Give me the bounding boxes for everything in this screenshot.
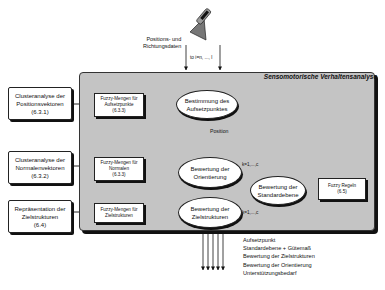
ellipse-line: Aufsetzpunktes: [177, 105, 237, 113]
ellipse-line: Orientierung: [179, 173, 241, 181]
edge-label-k-ziel: k=1,...,c: [242, 210, 258, 215]
box-line: Normalenvektoren: [9, 164, 71, 172]
target-structure-box[interactable]: Repräsentation der Zielstrukturen (6.4): [8, 200, 72, 233]
ellipse-line: Bewertung der: [179, 205, 241, 213]
ellipse-line: Bestimmung des: [177, 97, 237, 105]
edge-label-k-orient: k=1,...,c: [242, 162, 258, 167]
index-label: to i=n, ..., l: [190, 55, 212, 60]
box-line: Clusteranalyse der: [9, 92, 71, 100]
box-ref: (6.4): [9, 221, 71, 229]
output-item: Standardebene + Gütemaß: [243, 244, 315, 252]
fuzzy-aufsetz-box[interactable]: Fuzzy-Mengen für Aufsetzpunkte (6.3.3): [94, 93, 144, 117]
box-line: Positionsvektoren: [9, 100, 71, 108]
ellipse-standardebene[interactable]: Bewertung der Standardebene: [250, 176, 306, 205]
fuzzy-ziel-box[interactable]: Fuzzy-Mengen für Zielstrukturen: [94, 203, 144, 223]
ellipse-line: Zielstrukturen: [179, 213, 241, 221]
box-line: Repräsentation der: [9, 205, 71, 213]
box-line: Zielstrukturen: [95, 213, 143, 219]
box-ref: (6.3.3): [95, 108, 143, 114]
panel-title: Sensomotorische Verhaltensanalyse: [264, 73, 377, 80]
box-ref: (6.5): [319, 189, 365, 195]
ellipse-orientierung[interactable]: Bewertung der Orientierung: [178, 157, 242, 188]
ellipse-line: Standardebene: [251, 191, 305, 199]
box-ref: (6.3.3): [95, 172, 143, 178]
cluster-normal-box[interactable]: Clusteranalyse der Normalenvektoren (6.3…: [8, 151, 72, 184]
ellipse-zielstrukturen[interactable]: Bewertung der Zielstrukturen: [178, 197, 242, 228]
fuzzy-normal-box[interactable]: Fuzzy-Mengen für Normalen (6.3.3): [94, 157, 144, 181]
input-label: Positions- und Richtungsdaten: [143, 36, 181, 50]
input-label-line1: Positions- und: [143, 36, 181, 43]
box-line: Zielstrukturen: [9, 213, 71, 221]
box-line: Clusteranalyse der: [9, 156, 71, 164]
ellipse-line: Bewertung der: [179, 165, 241, 173]
output-item: Unterstützungsbedarf: [243, 269, 315, 277]
output-item: Bewertung der Orientierung: [243, 261, 315, 269]
edge-label-position: Position: [210, 128, 228, 134]
fuzzy-rules-box[interactable]: Fuzzy Regeln (6.5): [318, 178, 366, 200]
box-ref: (6.3.1): [9, 108, 71, 116]
input-label-line2: Richtungsdaten: [143, 43, 181, 50]
ellipse-line: Bewertung der: [251, 183, 305, 191]
output-list: Aufsetzpunkt Standardebene + Gütemaß Bew…: [243, 236, 315, 277]
output-item: Bewertung der Zielstrukturen: [243, 252, 315, 260]
cluster-position-box[interactable]: Clusteranalyse der Positionsvektoren (6.…: [8, 87, 72, 120]
output-item: Aufsetzpunkt: [243, 236, 315, 244]
ellipse-aufsetzpunkt[interactable]: Bestimmung des Aufsetzpunktes: [176, 90, 238, 119]
box-ref: (6.3.2): [9, 172, 71, 180]
